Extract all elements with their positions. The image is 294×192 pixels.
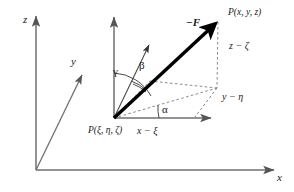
gamma-angle-label: γ	[113, 66, 118, 77]
diagram-canvas	[0, 0, 294, 192]
dx-component-label: x − ξ	[137, 126, 157, 136]
source-point-label: P(ξ, η, ζ)	[88, 126, 122, 136]
force-vector-label: −F	[186, 17, 200, 28]
field-point-label: P(x, y, z)	[228, 8, 261, 18]
alpha-arc	[158, 105, 159, 118]
dy-projection-line	[195, 88, 217, 117]
wedge-upper-edge-line	[150, 81, 217, 88]
gamma-arc	[114, 73, 151, 96]
alpha-angle-label: α	[162, 104, 168, 115]
vector-diagram-figure: z y x −F P(x, y, z) P(ξ, η, ζ) z − ζ y −…	[0, 0, 294, 192]
global-y-axis-label: y	[71, 56, 76, 67]
dy-component-label: y − η	[222, 92, 243, 102]
beta-angle-label: β	[139, 60, 145, 71]
dz-projection-line	[217, 22, 218, 88]
dz-component-label: z − ζ	[229, 41, 249, 51]
global-x-axis-label: x	[277, 172, 282, 183]
global-z-axis-label: z	[23, 14, 27, 25]
global-y-axis	[36, 75, 82, 170]
